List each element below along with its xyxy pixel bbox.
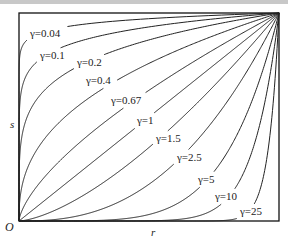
curve-label: γ=0.04 (30, 28, 60, 39)
origin-label: O (5, 221, 14, 233)
curve-label: γ=0.67 (111, 95, 141, 106)
curve-label: γ=5 (198, 174, 215, 185)
curve-label: γ=10 (215, 191, 237, 202)
curve-label: γ=2.5 (177, 152, 202, 163)
y-axis-label: s (10, 119, 14, 130)
curve-label: γ=0.4 (86, 75, 111, 86)
curve-label: γ=25 (240, 206, 262, 217)
curve-label: γ=0.2 (77, 57, 102, 68)
curve-label: γ=0.1 (40, 50, 65, 61)
curve-label: γ=1.5 (156, 133, 181, 144)
gamma-curves-diagram: γ=0.04γ=0.1γ=0.2γ=0.4γ=0.67γ=1γ=1.5γ=2.5… (0, 0, 288, 245)
x-axis-label: r (151, 227, 155, 238)
curve-label: γ=1 (137, 115, 154, 126)
